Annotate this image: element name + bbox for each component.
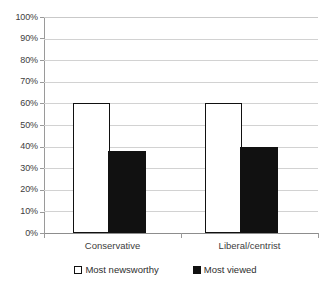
y-axis-tick-label-70: 70%: [2, 77, 38, 86]
y-axis-tick-label-20: 20%: [2, 185, 38, 194]
y-axis-tick-label-10: 10%: [2, 207, 38, 216]
y-axis-tick-label-50: 50%: [2, 121, 38, 130]
y-axis-tick-label-100: 100%: [2, 13, 38, 22]
gridline-70: [44, 82, 318, 83]
chart-legend: Most newsworthy Most viewed: [0, 264, 331, 275]
legend-label-most-newsworthy: Most newsworthy: [85, 264, 158, 275]
legend-label-most-viewed: Most viewed: [204, 264, 257, 275]
gridline-90: [44, 39, 318, 40]
legend-swatch-black-square-icon: [193, 266, 201, 274]
x-axis-tick-middle: [181, 233, 182, 238]
bar-conservative-most-newsworthy: [73, 103, 110, 233]
x-axis-tick-end: [318, 233, 319, 238]
x-axis-category-label-conservative: Conservative: [44, 240, 181, 251]
y-axis-tick-label-40: 40%: [2, 142, 38, 151]
bar-chart: 100% 90% 80% 70% 60% 50% 40% 30% 20% 10%…: [0, 0, 331, 296]
y-axis-tick-label-90: 90%: [2, 34, 38, 43]
bar-liberal-centrist-most-newsworthy: [205, 103, 242, 233]
legend-item-most-newsworthy: Most newsworthy: [74, 264, 158, 275]
y-axis-tick-label-80: 80%: [2, 56, 38, 65]
gridline-100: [44, 17, 318, 18]
y-axis-tick-label-60: 60%: [2, 99, 38, 108]
x-axis-tick-start: [44, 233, 45, 238]
gridline-80: [44, 60, 318, 61]
legend-item-most-viewed: Most viewed: [193, 264, 257, 275]
plot-area: [44, 17, 318, 233]
legend-swatch-white-square-icon: [74, 266, 82, 274]
x-axis-category-label-liberal-centrist: Liberal/centrist: [181, 240, 318, 251]
y-axis-tick-label-0: 0%: [2, 229, 38, 238]
bar-conservative-most-viewed: [108, 151, 146, 233]
y-axis-labels: 100% 90% 80% 70% 60% 50% 40% 30% 20% 10%…: [0, 0, 38, 296]
y-axis-tick-label-30: 30%: [2, 164, 38, 173]
bar-liberal-centrist-most-viewed: [240, 147, 278, 233]
